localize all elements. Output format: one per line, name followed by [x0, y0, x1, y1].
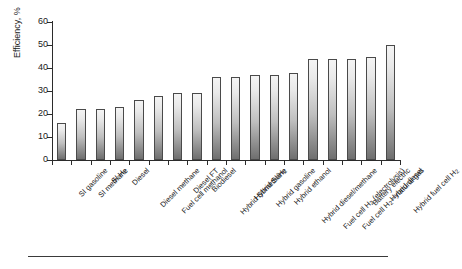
- bar: [134, 100, 144, 160]
- bar-series: [52, 22, 400, 160]
- bar: [308, 59, 318, 160]
- x-tick-mark: [265, 161, 266, 165]
- bar-slot: [347, 22, 357, 160]
- bar-slot: [134, 22, 144, 160]
- x-tick-mark: [342, 161, 343, 165]
- bar: [347, 59, 357, 160]
- bar-slot: [289, 22, 299, 160]
- x-axis-label: Diesel: [130, 166, 151, 187]
- x-tick-mark: [129, 161, 130, 165]
- bar: [96, 109, 106, 160]
- y-tick-label: 40: [38, 62, 48, 73]
- y-axis-title: Efficiency, %: [12, 7, 22, 58]
- x-axis-category-labels: SI gasolineSI methaneSI H2DieselDiesel m…: [52, 166, 400, 252]
- y-axis-title-host: Efficiency, %: [16, 22, 26, 160]
- x-tick-mark: [245, 161, 246, 165]
- bar: [386, 45, 396, 160]
- x-tick-mark: [284, 161, 285, 165]
- bar: [115, 107, 125, 160]
- x-tick-mark: [303, 161, 304, 165]
- x-tick-mark: [91, 161, 92, 165]
- bar-slot: [328, 22, 338, 160]
- bar-slot: [308, 22, 318, 160]
- bar-slot: [192, 22, 202, 160]
- bar-slot: [231, 22, 241, 160]
- bar-slot: [270, 22, 280, 160]
- bar-slot: [76, 22, 86, 160]
- x-tick-mark: [187, 161, 188, 165]
- x-tick-mark: [381, 161, 382, 165]
- x-tick-mark: [110, 161, 111, 165]
- bar: [212, 77, 222, 160]
- bar-slot: [212, 22, 222, 160]
- x-tick-mark: [400, 161, 401, 165]
- bar-slot: [173, 22, 183, 160]
- x-tick-mark: [226, 161, 227, 165]
- x-tick-mark: [71, 161, 72, 165]
- bar-slot: [57, 22, 67, 160]
- x-tick-mark: [168, 161, 169, 165]
- y-tick-label: 60: [38, 16, 48, 27]
- bar-slot: [386, 22, 396, 160]
- y-tick-label: 50: [38, 39, 48, 50]
- x-tick-mark: [361, 161, 362, 165]
- footer-divider: [28, 256, 388, 257]
- y-tick-label: 0: [43, 154, 48, 165]
- y-tick-label: 20: [38, 108, 48, 119]
- bar-slot: [115, 22, 125, 160]
- bar: [289, 73, 299, 160]
- bar-slot: [96, 22, 106, 160]
- x-tick-mark: [149, 161, 150, 165]
- x-tick-mark: [207, 161, 208, 165]
- bar: [57, 123, 67, 160]
- bar-slot: [250, 22, 260, 160]
- bar: [250, 75, 260, 160]
- bar-slot: [366, 22, 376, 160]
- bar: [76, 109, 86, 160]
- y-tick-label: 30: [38, 85, 48, 96]
- x-tick-mark: [323, 161, 324, 165]
- bar: [231, 77, 241, 160]
- bar: [173, 93, 183, 160]
- bar: [366, 57, 376, 161]
- bar: [270, 75, 280, 160]
- x-tick-mark: [52, 161, 53, 165]
- bar: [328, 59, 338, 160]
- y-tick-label: 10: [38, 131, 48, 142]
- bar-slot: [154, 22, 164, 160]
- bar: [154, 96, 164, 160]
- bar: [192, 93, 202, 160]
- x-axis-ticks: [52, 161, 400, 165]
